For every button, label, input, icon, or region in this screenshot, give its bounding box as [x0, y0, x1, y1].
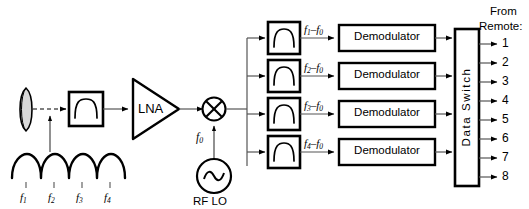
channel-bandpass-filter-1 — [268, 22, 300, 54]
input-spectrum-icon — [12, 154, 125, 188]
if-frequency-label-2: f2–f0 — [304, 62, 323, 73]
outputs-header-line2: Remote: — [479, 21, 522, 33]
demodulator-label-2: Demodulator — [339, 69, 435, 81]
if-frequency-label-3: f3–f0 — [304, 100, 323, 111]
spectrum-channel-label-3: f3 — [76, 192, 83, 203]
lens-icon — [20, 88, 32, 131]
lo-frequency-label: f0 — [196, 132, 203, 144]
output-port-label-8: 8 — [502, 170, 509, 182]
if-frequency-label-4: f4–f0 — [304, 138, 323, 149]
input-bandpass-filter — [69, 92, 103, 126]
output-port-label-6: 6 — [502, 132, 509, 144]
data-switch-label: Data Switch — [461, 68, 473, 147]
rf-lo-label: RF LO — [193, 196, 227, 208]
spectrum-channel-label-2: f2 — [48, 192, 55, 203]
output-port-label-5: 5 — [502, 113, 509, 125]
lna-label: LNA — [138, 102, 163, 115]
output-port-label-2: 2 — [502, 56, 509, 68]
channel-bandpass-filter-3 — [268, 98, 300, 130]
outputs-header-line1: From — [490, 6, 517, 18]
if-frequency-label-1: f1–f0 — [304, 24, 323, 35]
output-port-label-4: 4 — [502, 94, 509, 106]
diagram-canvas: f1 f2 f3 f4 LNA f0 RF LO f1–f0 f2–f0 f3–… — [0, 0, 529, 209]
demodulator-label-1: Demodulator — [339, 31, 435, 43]
demodulator-label-3: Demodulator — [339, 107, 435, 119]
rf-splitter-bus — [226, 38, 265, 166]
spectrum-channel-label-4: f4 — [104, 192, 111, 203]
rf-lo-oscillator — [197, 159, 231, 193]
output-port-label-1: 1 — [502, 37, 509, 49]
spectrum-channel-label-1: f1 — [20, 192, 27, 203]
block-diagram-graphics — [0, 0, 529, 209]
output-port-label-7: 7 — [502, 151, 509, 163]
channel-bandpass-filter-4 — [268, 136, 300, 168]
channel-bandpass-filter-2 — [268, 60, 300, 92]
demodulator-label-4: Demodulator — [339, 145, 435, 157]
mixer-icon — [203, 98, 226, 121]
output-port-label-3: 3 — [502, 75, 509, 87]
